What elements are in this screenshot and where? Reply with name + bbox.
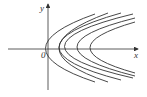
- parabola-curve: [65, 14, 134, 78]
- parabola-curves: [46, 13, 136, 82]
- origin-label: 0: [41, 50, 46, 60]
- parabola-curve: [77, 18, 135, 76]
- y-axis-label: y: [39, 3, 44, 13]
- x-axis-label: x: [133, 50, 138, 60]
- parabola-family-diagram: y x 0: [0, 0, 147, 97]
